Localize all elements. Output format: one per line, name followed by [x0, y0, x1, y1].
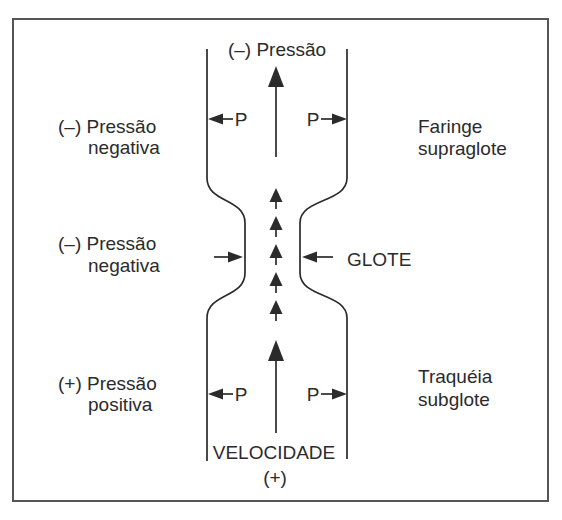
glottis-pointer-arrow-left	[214, 252, 243, 263]
label-faringe-supraglote: Faringe supraglote	[418, 116, 507, 159]
svg-text:(+): (+)	[263, 467, 287, 488]
svg-text:supraglote: supraglote	[418, 138, 507, 159]
scanned-figure: P P P P (–) Pressão (–)	[0, 0, 562, 520]
label-velocidade: VELOCIDADE (+)	[213, 442, 335, 488]
glottis-pointer-arrow-right	[302, 252, 333, 263]
jet-arrow-icon	[270, 188, 283, 209]
svg-text:(–) Pressão: (–) Pressão	[58, 116, 156, 137]
svg-text:negativa: negativa	[88, 255, 160, 276]
svg-text:Faringe: Faringe	[418, 116, 482, 137]
jet-arrow-icon	[270, 216, 283, 237]
label-glote: GLOTE	[347, 249, 411, 270]
p-symbol: P	[307, 109, 320, 130]
label-subglottic-pressure: (+) Pressão positiva	[58, 373, 157, 415]
label-supraglottic-pressure: (–) Pressão negativa	[58, 116, 160, 158]
label-traqueia-subglote: Traquéia subglote	[418, 366, 493, 410]
p-symbol: P	[235, 384, 248, 405]
jet-arrow-icon	[270, 300, 283, 321]
top-pressure-label: (–) Pressão	[228, 39, 326, 60]
p-symbol: P	[235, 109, 248, 130]
pressure-arrow-right-upper: P	[307, 109, 347, 130]
svg-text:negativa: negativa	[88, 137, 160, 158]
svg-text:(+) Pressão: (+) Pressão	[58, 373, 157, 394]
pressure-arrow-right-lower: P	[307, 384, 347, 405]
jet-arrow-icon	[270, 244, 283, 265]
pressure-arrow-left-lower: P	[208, 384, 247, 405]
svg-text:subglote: subglote	[418, 389, 490, 410]
glottis-airflow-diagram: P P P P (–) Pressão (–)	[0, 0, 562, 520]
p-symbol: P	[307, 384, 320, 405]
glottal-jet-arrows	[270, 188, 283, 321]
svg-text:positiva: positiva	[88, 394, 153, 415]
svg-text:Traquéia: Traquéia	[418, 366, 493, 387]
upward-flow-arrow-top	[268, 66, 284, 157]
svg-text:VELOCIDADE: VELOCIDADE	[213, 442, 335, 463]
upward-flow-arrow-bottom	[268, 340, 284, 433]
svg-text:(–) Pressão: (–) Pressão	[58, 233, 156, 254]
pressure-arrow-left-upper: P	[208, 109, 247, 130]
label-glottic-pressure: (–) Pressão negativa	[58, 233, 160, 276]
jet-arrow-icon	[270, 272, 283, 293]
